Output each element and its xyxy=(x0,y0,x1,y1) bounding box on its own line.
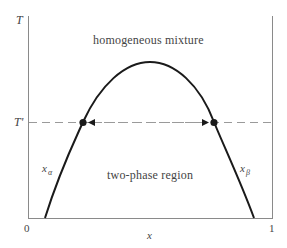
x-alpha-subscript: α xyxy=(48,168,52,177)
y-axis-label: T xyxy=(16,14,23,26)
right-phase-point xyxy=(210,119,217,126)
right-arrow-icon xyxy=(202,119,209,126)
x-axis-label: x xyxy=(147,230,152,241)
homogeneous-region-label: homogeneous mixture xyxy=(93,34,204,46)
x-beta-subscript: β xyxy=(246,168,250,177)
x-tick-min: 0 xyxy=(24,223,30,234)
coexistence-curve xyxy=(45,62,254,218)
x-tick-max: 1 xyxy=(269,223,275,234)
x-beta-label: xβ xyxy=(240,163,250,177)
two-phase-region-label: two-phase region xyxy=(107,169,193,181)
left-arrow-icon xyxy=(88,119,95,126)
t-prime-label: T' xyxy=(14,116,23,128)
left-phase-point xyxy=(79,119,86,126)
x-alpha-label: xα xyxy=(42,163,52,177)
x-beta-base: x xyxy=(240,162,245,174)
x-alpha-base: x xyxy=(42,162,47,174)
